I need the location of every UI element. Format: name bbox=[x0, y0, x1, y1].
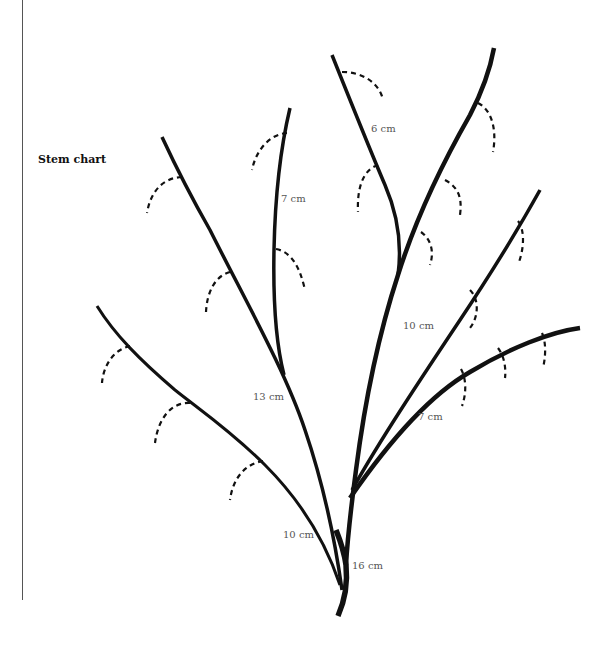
trunk-stem bbox=[336, 530, 347, 616]
branch-7cm-left bbox=[274, 108, 290, 375]
measurement-label-6cm: 6 cm bbox=[371, 123, 396, 134]
central-stem-16cm bbox=[346, 48, 494, 565]
leaf-hook bbox=[358, 165, 378, 212]
stem-diagram: 6 cm 7 cm 10 cm 13 cm 7 cm 10 cm 16 cm bbox=[0, 0, 615, 661]
measurement-label-16cm: 16 cm bbox=[352, 560, 384, 571]
leaf-hook bbox=[276, 249, 305, 290]
measurement-label-10cm-left: 10 cm bbox=[283, 529, 315, 540]
branch-10cm-left bbox=[97, 306, 340, 585]
leaf-hook bbox=[230, 461, 263, 500]
leaf-hook bbox=[155, 403, 190, 443]
branch-6cm bbox=[332, 55, 399, 275]
leaf-hook bbox=[445, 180, 461, 215]
leaf-hook bbox=[421, 232, 432, 265]
measurement-label-7cm-left: 7 cm bbox=[281, 193, 306, 204]
branch-13cm bbox=[162, 137, 342, 590]
measurement-label-13cm: 13 cm bbox=[253, 391, 285, 402]
measurement-label-7cm-right: 7 cm bbox=[418, 411, 443, 422]
leaf-hook bbox=[147, 177, 182, 213]
leaf-hook bbox=[206, 272, 230, 312]
leaf-hook bbox=[478, 103, 494, 152]
leaf-hook bbox=[102, 346, 130, 383]
measurement-label-10cm-right: 10 cm bbox=[403, 320, 435, 331]
